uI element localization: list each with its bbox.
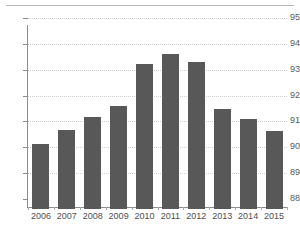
x-tick-mark	[209, 207, 210, 210]
x-tick-mark	[54, 207, 55, 210]
plot-area	[28, 18, 287, 209]
bar-2006[interactable]	[32, 144, 49, 209]
x-tick-mark	[106, 207, 107, 210]
x-tick-mark	[261, 207, 262, 210]
header-divider	[6, 5, 294, 6]
clipped-header-strip	[0, 0, 300, 6]
bar-2013[interactable]	[214, 109, 231, 209]
x-tick-mark	[80, 207, 81, 210]
bar-2010[interactable]	[136, 64, 153, 209]
bar-2014[interactable]	[240, 119, 257, 210]
x-tick-mark	[158, 207, 159, 210]
x-tick-mark	[235, 207, 236, 210]
chart-page: 8889909192939495 20062007200820092010201…	[0, 0, 300, 226]
bar-chart: 8889909192939495 20062007200820092010201…	[0, 8, 300, 226]
bar-2011[interactable]	[162, 54, 179, 209]
bar-2012[interactable]	[188, 62, 205, 209]
x-tick-label-2015: 2015	[258, 211, 290, 221]
bar-2007[interactable]	[58, 130, 75, 209]
x-tick-mark	[287, 207, 288, 210]
bar-2015[interactable]	[266, 131, 283, 209]
x-tick-mark	[183, 207, 184, 210]
x-tick-mark	[132, 207, 133, 210]
bar-2008[interactable]	[84, 117, 101, 209]
x-tick-mark	[28, 207, 29, 210]
bar-2009[interactable]	[110, 106, 127, 209]
